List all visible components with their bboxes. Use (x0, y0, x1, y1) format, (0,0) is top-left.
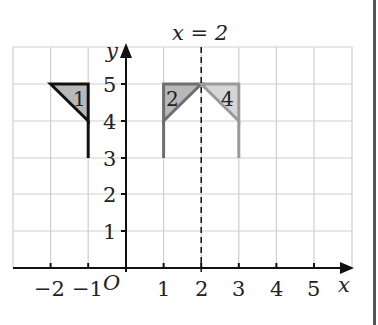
x-axis-label: x (338, 273, 350, 297)
reflection-diagram: 1 2 4 x = 2 y x O −2 −1 1 (0, 0, 378, 325)
origin-label: O (103, 271, 120, 295)
shape-2-label: 2 (166, 87, 179, 111)
x-tick-label: 1 (157, 277, 170, 301)
y-tick-label: 3 (103, 147, 116, 171)
x-tick-label: 2 (195, 277, 208, 301)
x-tick-label: 5 (307, 277, 320, 301)
x-tick-label: −1 (72, 277, 103, 301)
x-tick-label: −2 (34, 277, 65, 301)
shape-1-label: 1 (73, 87, 86, 111)
x-tick-label: 3 (232, 277, 245, 301)
y-axis-label: y (105, 39, 119, 63)
x-tick-labels: −2 −1 1 2 3 4 5 (34, 277, 320, 301)
grid (13, 47, 352, 268)
y-tick-label: 5 (103, 73, 116, 97)
y-tick-labels: 1 2 3 4 5 (103, 73, 116, 244)
shape-4-label: 4 (221, 87, 234, 111)
x-tick-label: 4 (270, 277, 283, 301)
y-tick-label: 4 (103, 110, 116, 134)
page-border (373, 0, 376, 325)
y-tick-label: 2 (103, 183, 116, 207)
mirror-line-label: x = 2 (172, 21, 228, 45)
y-axis-arrow-icon (120, 43, 132, 58)
y-tick-label: 1 (103, 220, 116, 244)
